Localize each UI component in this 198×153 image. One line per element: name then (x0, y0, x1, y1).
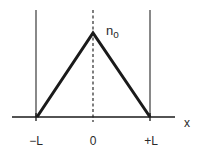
tick-label-plus-L: +L (144, 134, 158, 148)
peak-label-subscript: o (113, 29, 119, 40)
peak-label: no (106, 23, 119, 40)
x-axis-label: x (184, 116, 190, 130)
tick-label-minus-L: −L (29, 134, 43, 148)
diagram-canvas: no x −L 0 +L (0, 0, 198, 153)
tick-label-zero: 0 (90, 134, 97, 148)
